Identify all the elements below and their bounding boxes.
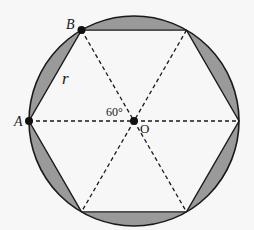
label-vertex-a: A	[13, 114, 23, 129]
label-radius: r	[62, 69, 69, 88]
point-o	[130, 117, 138, 125]
hexagon-in-circle-diagram: B A r 60° O	[0, 0, 254, 230]
label-angle: 60°	[106, 105, 123, 119]
point-a	[25, 117, 33, 125]
label-center-o: O	[140, 121, 149, 136]
point-b	[78, 26, 86, 34]
label-vertex-b: B	[66, 17, 75, 32]
